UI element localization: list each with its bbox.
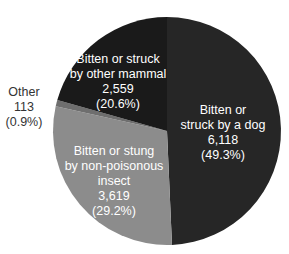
label-insect: Bitten or stung by non-poisonous insect … — [62, 144, 166, 219]
label-mammal-value: 2,559 — [66, 82, 170, 97]
label-insect-line3: insect — [62, 174, 166, 189]
label-mammal-pct: (20.6%) — [66, 97, 170, 112]
label-mammal-line2: by other mammal — [66, 67, 170, 82]
label-dog-value: 6,118 — [168, 133, 278, 148]
label-insect-pct: (29.2%) — [62, 204, 166, 219]
label-mammal: Bitten or struck by other mammal 2,559 (… — [66, 52, 170, 112]
label-other-value: 113 — [4, 100, 44, 115]
label-insect-line1: Bitten or stung — [62, 144, 166, 159]
label-other-line1: Other — [4, 85, 44, 100]
label-insect-value: 3,619 — [62, 189, 166, 204]
label-other: Other 113 (0.9%) — [4, 85, 44, 130]
label-insect-line2: by non-poisonous — [62, 159, 166, 174]
label-dog-line1: Bitten or — [168, 103, 278, 118]
label-dog: Bitten or struck by a dog 6,118 (49.3%) — [168, 103, 278, 163]
label-dog-line2: struck by a dog — [168, 118, 278, 133]
label-dog-pct: (49.3%) — [168, 148, 278, 163]
label-other-pct: (0.9%) — [4, 115, 44, 130]
label-mammal-line1: Bitten or struck — [66, 52, 170, 67]
